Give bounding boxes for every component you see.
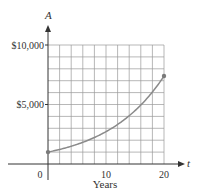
data-point-marker xyxy=(46,150,50,154)
x-axis-symbol: t xyxy=(187,157,191,169)
y-tick-label: $5,000 xyxy=(17,99,45,110)
exponential-growth-chart: $5,000$10,000 01020 t A Years xyxy=(0,0,199,192)
x-axis-label: Years xyxy=(93,178,118,190)
data-point-marker xyxy=(162,74,166,78)
y-tick-labels: $5,000$10,000 xyxy=(12,40,49,111)
y-axis-arrowhead xyxy=(45,25,51,32)
grid-lines xyxy=(48,45,164,164)
x-tick-label: 0 xyxy=(38,169,43,180)
y-tick-label: $10,000 xyxy=(12,40,45,51)
x-axis-arrowhead xyxy=(178,161,185,167)
x-tick-label: 20 xyxy=(159,169,169,180)
y-axis-symbol: A xyxy=(44,9,52,21)
